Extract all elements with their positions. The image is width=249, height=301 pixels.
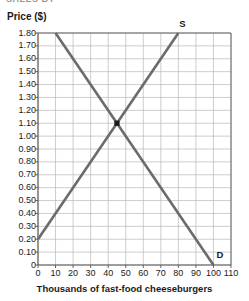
equilibrium-point	[114, 121, 119, 126]
y-tick-label: 1.50	[4, 67, 36, 76]
chart-canvas	[0, 0, 249, 301]
y-tick-label: 1.40	[4, 80, 36, 89]
y-tick-label: 0.60	[4, 183, 36, 192]
y-tick-label: 1.00	[4, 132, 36, 141]
y-tick-label: 0.80	[4, 157, 36, 166]
y-tick-label: 1.10	[4, 119, 36, 128]
y-axis-tick-labels: 00.100.200.300.400.500.600.700.800.901.0…	[0, 0, 36, 301]
y-tick-label: 1.80	[4, 29, 36, 38]
y-tick-label: 0.20	[4, 235, 36, 244]
demand-curve-label: D	[216, 249, 223, 260]
x-axis-title: Thousands of fast-food cheeseburgers	[0, 283, 249, 294]
y-tick-label: 0.10	[4, 248, 36, 257]
y-tick-label: 0.40	[4, 209, 36, 218]
y-tick-label: 0.70	[4, 170, 36, 179]
demand-curve	[56, 33, 214, 265]
y-tick-label: 1.60	[4, 54, 36, 63]
y-tick-label: 0.30	[4, 222, 36, 231]
y-tick-label: 1.70	[4, 41, 36, 50]
y-tick-label: 0.50	[4, 196, 36, 205]
y-tick-label: 1.20	[4, 106, 36, 115]
supply-curve	[38, 33, 178, 239]
supply-demand-chart: SALES BY Price ($) 00.100.200.300.400.50…	[0, 0, 249, 301]
y-tick-label: 0.90	[4, 145, 36, 154]
y-tick-label: 1.30	[4, 93, 36, 102]
x-tick-label: 110	[220, 268, 242, 278]
supply-curve-label: S	[179, 18, 185, 29]
